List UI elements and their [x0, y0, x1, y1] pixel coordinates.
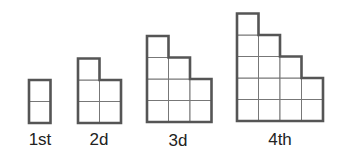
grid-cell	[147, 101, 169, 123]
grid-cell	[78, 80, 100, 102]
grid-cell	[259, 100, 281, 122]
grid-cell	[237, 14, 259, 36]
figure-label-2d: 2d	[69, 130, 129, 150]
figure-3d	[147, 36, 212, 122]
figure-label-4th: 4th	[250, 130, 310, 150]
grid-cell	[259, 57, 281, 79]
grid-cell	[100, 102, 122, 124]
grid-cell	[302, 100, 324, 122]
figure-1st	[29, 80, 51, 123]
grid-cell	[237, 57, 259, 79]
grid-cell	[237, 78, 259, 100]
figure-2d	[78, 59, 121, 124]
grid-cell	[190, 101, 212, 123]
grid-cell	[169, 101, 191, 123]
figure-label-1st: 1st	[10, 130, 70, 150]
grid-cell	[169, 58, 191, 80]
grid-cell	[100, 80, 122, 102]
grid-cell	[280, 100, 302, 122]
grid-cell	[280, 57, 302, 79]
grid-cell	[280, 78, 302, 100]
grid-cell	[169, 79, 191, 101]
grid-cell	[147, 36, 169, 58]
grid-cell	[29, 102, 51, 124]
grid-cell	[302, 78, 324, 100]
grid-cell	[237, 35, 259, 57]
grid-cell	[259, 35, 281, 57]
grid-cell	[190, 79, 212, 101]
grid-cell	[147, 79, 169, 101]
grid-cell	[259, 78, 281, 100]
grid-cell	[78, 59, 100, 81]
grid-cell	[237, 100, 259, 122]
figure-label-3d: 3d	[148, 131, 208, 151]
grid-cell	[29, 80, 51, 102]
figure-4th	[237, 14, 323, 122]
grid-cell	[147, 58, 169, 80]
grid-cell	[78, 102, 100, 124]
